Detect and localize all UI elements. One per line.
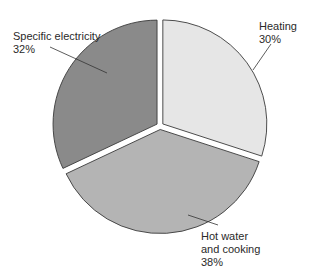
leader-heating <box>253 44 271 70</box>
label-heating-name: Heating <box>259 20 297 33</box>
label-hot-water: Hot water and cooking 38% <box>201 230 260 269</box>
label-heating-pct: 30% <box>259 33 297 46</box>
label-hot-water-line2: and cooking <box>201 243 260 256</box>
label-heating: Heating 30% <box>259 20 297 46</box>
label-electricity-pct: 32% <box>13 43 100 56</box>
label-electricity-name: Specific electricity <box>13 30 100 43</box>
label-hot-water-line1: Hot water <box>201 230 260 243</box>
label-electricity: Specific electricity 32% <box>13 30 100 56</box>
label-hot-water-pct: 38% <box>201 256 260 269</box>
